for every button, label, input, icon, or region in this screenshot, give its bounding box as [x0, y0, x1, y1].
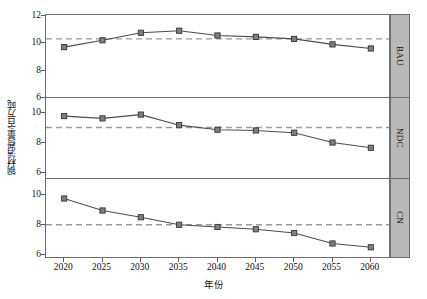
x-tick-label: 2030 [130, 262, 149, 272]
strip-bau: BAU [390, 14, 410, 98]
x-tick-label: 2035 [169, 262, 188, 272]
x-tick-mark [217, 258, 218, 262]
data-point-marker [215, 224, 220, 229]
y-axis-line [45, 14, 46, 258]
data-point-marker [330, 241, 335, 246]
data-point-marker [62, 45, 67, 50]
data-point-marker [138, 112, 143, 117]
x-tick-label: 2060 [360, 262, 379, 272]
x-tick-label: 2045 [245, 262, 264, 272]
x-tick-label: 2025 [92, 262, 111, 272]
x-tick-mark [332, 258, 333, 262]
steel-consumption-chart: 钢材消费量/百万吨 68101268106810 BAU NDC CN 2020… [0, 0, 427, 299]
x-tick-mark [102, 258, 103, 262]
data-point-marker [253, 128, 258, 133]
cn-panel [45, 178, 390, 258]
data-point-marker [292, 230, 297, 235]
y-tick-label: 10 [32, 107, 42, 117]
data-point-marker [330, 140, 335, 145]
data-point-marker [292, 130, 297, 135]
strip-ndc: NDC [390, 97, 410, 179]
ndc-panel [45, 97, 390, 179]
bau-plot-area [46, 15, 389, 97]
x-tick-mark [63, 258, 64, 262]
data-point-marker [100, 38, 105, 43]
data-point-marker [138, 30, 143, 35]
x-tick-mark [293, 258, 294, 262]
y-tick-label: 10 [32, 37, 42, 47]
panel-stack [45, 14, 390, 258]
data-point-marker [100, 116, 105, 121]
x-tick-label: 2055 [322, 262, 341, 272]
data-point-marker [368, 46, 373, 51]
data-point-marker [368, 145, 373, 150]
cn-plot-area [46, 179, 389, 257]
data-point-marker [100, 208, 105, 213]
y-axis-title: 钢材消费量/百万吨 [2, 0, 18, 275]
series-line [64, 199, 371, 248]
data-point-marker [177, 28, 182, 33]
data-point-marker [330, 42, 335, 47]
data-point-marker [177, 123, 182, 128]
x-axis-title: 年份 [0, 277, 427, 291]
x-tick-label: 2050 [284, 262, 303, 272]
bau-panel [45, 14, 390, 98]
data-point-marker [62, 196, 67, 201]
y-tick-label: 10 [32, 189, 42, 199]
ndc-plot-area [46, 98, 389, 178]
strip-cn: CN [390, 178, 410, 258]
data-point-marker [368, 245, 373, 250]
data-point-marker [253, 34, 258, 39]
x-tick-mark [140, 258, 141, 262]
data-point-marker [138, 215, 143, 220]
y-tick-label: 12 [32, 10, 42, 20]
plot-right-border [389, 14, 390, 258]
data-point-marker [177, 222, 182, 227]
data-point-marker [253, 227, 258, 232]
x-tick-mark [370, 258, 371, 262]
data-point-marker [215, 127, 220, 132]
x-axis-tick-labels: 202020252030203520402045205020552060 [45, 259, 390, 275]
x-tick-label: 2040 [207, 262, 226, 272]
x-tick-mark [178, 258, 179, 262]
x-tick-mark [255, 258, 256, 262]
data-point-marker [215, 33, 220, 38]
data-point-marker [292, 36, 297, 41]
x-axis-line [45, 257, 390, 258]
strip-labels: BAU NDC CN [390, 14, 410, 258]
x-tick-label: 2020 [54, 262, 73, 272]
data-point-marker [62, 114, 67, 119]
